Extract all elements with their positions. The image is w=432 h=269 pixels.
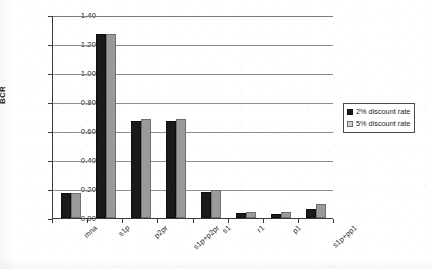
- x-tick-mark: [263, 219, 264, 223]
- bar: [306, 209, 316, 218]
- bar: [61, 193, 71, 218]
- x-tick-mark: [52, 219, 53, 223]
- bar-group: [264, 212, 299, 218]
- legend-item-5pct: 5% discount rate: [347, 119, 410, 129]
- bars-layer: [53, 16, 333, 218]
- legend: 2% discount rate 5% discount rate: [343, 103, 415, 133]
- y-axis-title: BCR: [0, 86, 7, 104]
- bcr-bar-chart: BCR 0.000.200.400.600.801.001.201.40 mna…: [0, 0, 432, 269]
- bar-group: [158, 119, 193, 218]
- bar: [236, 213, 246, 218]
- x-tick-mark: [87, 219, 88, 223]
- x-category-label: s1p+p2pr: [192, 224, 221, 251]
- legend-item-2pct: 2% discount rate: [347, 107, 410, 117]
- legend-swatch-icon-5pct: [347, 121, 353, 127]
- bar-group: [194, 190, 229, 218]
- bar: [106, 34, 116, 218]
- bar: [281, 212, 291, 218]
- legend-label-5pct: 5% discount rate: [356, 120, 410, 128]
- x-tick-mark: [122, 219, 123, 223]
- bar-group: [53, 193, 88, 218]
- x-tick-mark: [333, 219, 334, 223]
- x-tick-mark: [298, 219, 299, 223]
- bar: [271, 214, 281, 218]
- x-category-label: mna: [82, 224, 98, 240]
- bar-group: [299, 204, 334, 219]
- x-tick-mark: [228, 219, 229, 223]
- x-category-label: p1: [291, 224, 303, 236]
- bar: [71, 193, 81, 218]
- bar: [201, 192, 211, 218]
- bar: [166, 121, 176, 218]
- bar: [246, 212, 256, 218]
- bar: [176, 119, 186, 218]
- bar: [96, 34, 106, 218]
- x-category-label: s1: [221, 224, 232, 235]
- bar: [131, 121, 141, 218]
- bar-group: [88, 34, 123, 218]
- x-category-label: p2pr: [153, 224, 170, 240]
- bar-group: [123, 119, 158, 218]
- x-category-label: s1p: [117, 224, 131, 238]
- x-tick-mark: [193, 219, 194, 223]
- bar-group: [229, 212, 264, 218]
- legend-swatch-icon-2pct: [347, 109, 353, 115]
- x-category-label: s1p+pp1: [332, 224, 359, 250]
- x-tick-mark: [157, 219, 158, 223]
- x-category-label: r1: [256, 224, 266, 234]
- bar: [211, 190, 221, 218]
- legend-label-2pct: 2% discount rate: [356, 108, 410, 116]
- plot-area: [52, 16, 333, 219]
- bar: [316, 204, 326, 219]
- bar: [141, 119, 151, 218]
